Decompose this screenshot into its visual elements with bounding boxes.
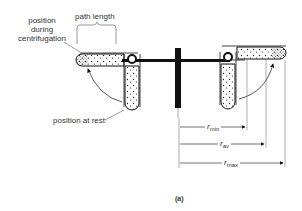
left-swing-arrow: [88, 69, 122, 102]
label-position-at-rest: position at rest: [53, 116, 105, 125]
rotor-arm: [122, 59, 230, 62]
leader-position-at-rest: [105, 110, 124, 120]
label-line-2: during: [16, 25, 68, 34]
r-max-subscript: max: [227, 162, 238, 168]
path-length-bracket: [77, 22, 116, 44]
label-path-length: path length: [75, 12, 115, 21]
right-swing-arrow: [239, 64, 273, 99]
r-av-subscript: av: [223, 143, 229, 149]
label-r-min: rmin: [205, 123, 221, 133]
label-line-3: centrifugation: [16, 34, 68, 43]
left-pivot: [128, 55, 136, 63]
r-min-subscript: min: [210, 126, 220, 132]
panel-label: (a): [175, 194, 184, 203]
label-position-during-centrifugation: position during centrifugation: [16, 16, 68, 43]
rotor-shaft: [175, 48, 181, 118]
label-line-1: position: [16, 16, 68, 25]
label-r-av: rav: [218, 140, 231, 150]
label-r-max: rmax: [222, 159, 240, 169]
radius-arrows: [180, 127, 283, 163]
leader-position-during: [64, 42, 80, 52]
